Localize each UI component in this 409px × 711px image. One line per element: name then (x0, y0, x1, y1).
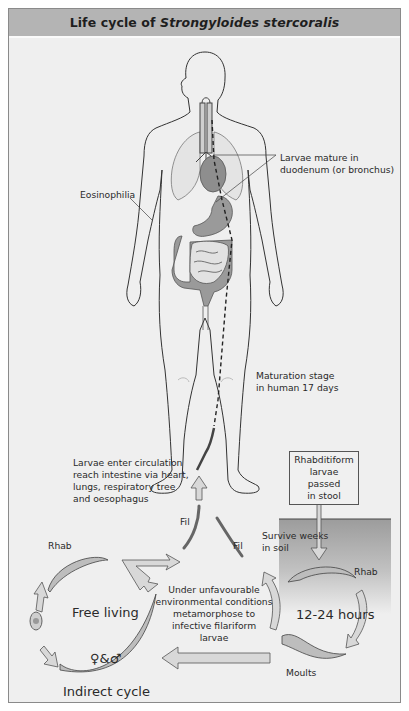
label-line: in soil (262, 542, 328, 554)
maturation-stage-label: Maturation stage in human 17 days (256, 370, 339, 394)
arrow-cycle-down-icon (40, 646, 58, 667)
rhabditiform-box: Rhabditiform larvae passed in stool (289, 451, 359, 505)
label-line: in stool (294, 490, 354, 502)
rhab-left-label: Rhab (48, 540, 72, 552)
label-line: Maturation stage (256, 370, 339, 382)
label-line: Rhabditiform (294, 454, 354, 466)
label-line: larvae (152, 632, 276, 644)
larvae-mature-label: Larvae mature in duodenum (or bronchus) (280, 152, 394, 176)
label-line: Under unfavourable (152, 584, 276, 596)
label-line: in human 17 days (256, 382, 339, 394)
heart-icon (200, 156, 226, 192)
label-line: Larvae mature in (280, 152, 394, 164)
survive-soil-label: Survive weeks in soil (262, 530, 328, 554)
label-line: metamorphose to (152, 608, 276, 620)
intestines-icon (172, 236, 232, 306)
arrow-cycle-up-icon (34, 582, 48, 612)
unfavourable-conditions-label: Under unfavourable environmental conditi… (152, 584, 276, 644)
stomach-icon (193, 196, 233, 236)
label-line: larvae passed (294, 466, 354, 490)
arrow-up-icon (191, 476, 207, 500)
label-line: and oesophagus (73, 493, 189, 505)
label-line: reach intestine via heart, (73, 469, 189, 481)
rhab-right-label: Rhab (354, 566, 378, 578)
label-line: Larvae enter circulation (73, 457, 189, 469)
free-living-label: Free living (72, 607, 139, 619)
rhabditiform-larva-left-icon (48, 557, 108, 592)
label-line: lungs, respiratory tree (73, 481, 189, 493)
moulting-larva-icon (282, 635, 346, 659)
filariform-larva-skin-icon (197, 428, 214, 470)
label-line: environmental conditions (152, 596, 276, 608)
label-line: Survive weeks (262, 530, 328, 542)
label-line: duodenum (or bronchus) (280, 164, 394, 176)
indirect-cycle-label: Indirect cycle (63, 686, 150, 698)
circulation-label: Larvae enter circulation reach intestine… (73, 457, 189, 505)
fil-left-label: Fil (180, 516, 190, 528)
arrow-left-icon (162, 647, 270, 669)
label-line: infective filariform (152, 620, 276, 632)
eosinophilia-label: Eosinophilia (80, 189, 135, 201)
sexes-label: ♀&♂ (90, 653, 121, 665)
hours-label: 12-24 hours (296, 609, 374, 621)
fil-right-label: Fil (233, 540, 243, 552)
moults-label: Moults (286, 667, 316, 679)
